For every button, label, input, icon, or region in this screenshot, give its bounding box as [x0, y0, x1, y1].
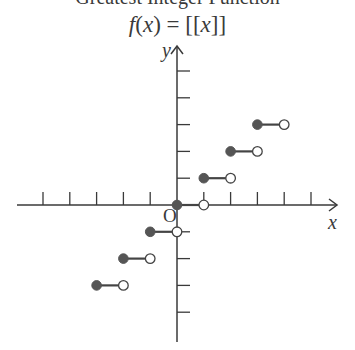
open-dot-icon: [253, 147, 263, 157]
closed-dot-icon: [226, 147, 236, 157]
open-dot-icon: [172, 227, 182, 237]
closed-dot-icon: [92, 281, 102, 291]
plot-area: y x O: [0, 0, 355, 350]
closed-dot-icon: [199, 173, 209, 183]
axes: [17, 46, 337, 342]
x-axis-label: x: [327, 211, 337, 233]
closed-dot-icon: [253, 120, 263, 130]
step-segment: [253, 120, 289, 130]
open-dot-icon: [226, 173, 236, 183]
origin-label: O: [163, 205, 177, 226]
step-segment: [226, 147, 262, 157]
step-segment: [92, 281, 128, 291]
open-dot-icon: [119, 281, 129, 291]
step-segment: [145, 227, 181, 237]
step-segment: [172, 200, 208, 210]
closed-dot-icon: [145, 227, 155, 237]
open-dot-icon: [145, 254, 155, 264]
y-axis-label: y: [160, 39, 171, 62]
step-segment: [119, 254, 155, 264]
open-dot-icon: [199, 200, 209, 210]
step-segment: [199, 173, 235, 183]
closed-dot-icon: [119, 254, 129, 264]
open-dot-icon: [279, 120, 289, 130]
